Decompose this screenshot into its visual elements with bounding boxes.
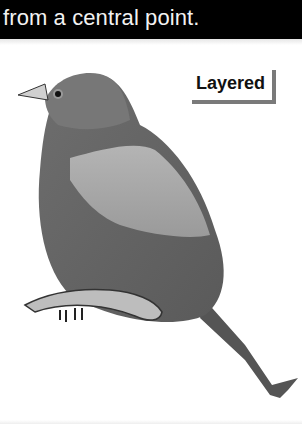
caption-text: from a central point.	[3, 4, 200, 32]
label-text: Layered	[196, 73, 265, 94]
layered-label: Layered	[192, 70, 276, 104]
caption-bar: from a central point.	[0, 0, 302, 39]
divider	[0, 420, 302, 424]
bird-figure: Layered	[0, 45, 302, 424]
